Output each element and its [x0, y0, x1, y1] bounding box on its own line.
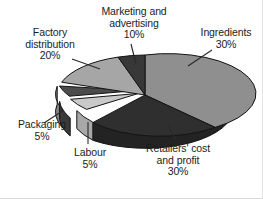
slice-label-packaging-value: 5%: [6, 131, 78, 143]
slice-label-marketing-line1: Marketing and: [88, 6, 180, 18]
slice-label-factory-line1: Factory: [8, 27, 92, 39]
slice-label-labour-value: 5%: [62, 159, 118, 171]
slice-label-labour: Labour 5%: [62, 147, 118, 170]
slice-label-ingredients-line1: Ingredients: [190, 27, 262, 39]
slice-label-marketing-and-advertising: Marketing and advertising 10%: [88, 6, 180, 41]
page-edge-right: [262, 0, 263, 199]
slice-label-marketing-value: 10%: [88, 29, 180, 41]
slice-label-retailers-line1: Retailers' cost: [128, 143, 228, 155]
page-edge-bottom: [0, 198, 263, 199]
slice-label-factory-value: 20%: [8, 50, 92, 62]
slice-label-packaging: Packaging 5%: [6, 119, 78, 142]
slice-label-labour-line1: Labour: [62, 147, 118, 159]
slice-label-ingredients: Ingredients 30%: [190, 27, 262, 50]
slice-label-retailers-value: 30%: [128, 166, 228, 178]
slice-label-factory-distribution: Factory distribution 20%: [8, 27, 92, 62]
slice-label-retailers-cost-and-profit: Retailers' cost and profit 30%: [128, 143, 228, 178]
slice-label-ingredients-value: 30%: [190, 39, 262, 51]
slice-side-labour: [77, 111, 93, 141]
slice-label-packaging-line1: Packaging: [6, 119, 78, 131]
pie-chart-screenshot: Marketing and advertising 10% Ingredient…: [0, 0, 263, 199]
